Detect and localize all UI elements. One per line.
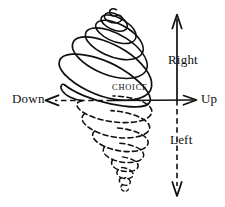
axis-label-right: Right — [168, 53, 198, 66]
axis-label-left: Left — [170, 133, 192, 146]
choice-label: CHOICE — [104, 83, 156, 92]
choice-spiral-figure: Down Up Right Left CHOICE — [0, 0, 225, 207]
lower-spiral-dashed — [77, 96, 152, 191]
dashed-loop-4 — [103, 143, 144, 162]
axis-vertical-lower — [172, 100, 181, 196]
upper-spiral-solid — [59, 9, 152, 107]
dashed-loop-3 — [93, 128, 149, 152]
axis-label-down: Down — [12, 92, 45, 105]
axis-label-up: Up — [201, 92, 217, 105]
dashed-loop-5 — [112, 157, 139, 172]
